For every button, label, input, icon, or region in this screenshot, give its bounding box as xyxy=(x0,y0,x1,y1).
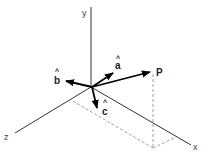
projection-to-z xyxy=(71,100,153,148)
c-hat: ^ xyxy=(103,99,107,106)
coordinate-diagram: y z x ^ a ^ b ^ c P xyxy=(0,0,206,162)
vector-b xyxy=(66,81,92,87)
b-label: b xyxy=(54,75,60,86)
c-label: c xyxy=(102,106,108,117)
point-p-label: P xyxy=(156,67,163,78)
x-axis-label: x xyxy=(193,142,198,152)
y-axis-label: y xyxy=(82,8,87,18)
projection-to-x xyxy=(153,137,176,148)
vector-p xyxy=(92,72,150,87)
b-hat: ^ xyxy=(55,68,59,75)
z-axis xyxy=(15,87,91,133)
z-axis-label: z xyxy=(4,132,9,142)
a-label: a xyxy=(115,60,121,71)
